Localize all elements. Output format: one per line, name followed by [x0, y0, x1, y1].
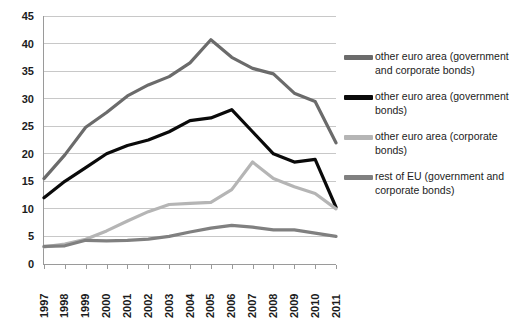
- x-tick: [169, 265, 170, 269]
- x-tick-label: 2000: [101, 272, 112, 318]
- x-tick: [273, 265, 274, 269]
- legend-entry: rest of EU (government and corporate bon…: [344, 170, 520, 197]
- legend-swatch-icon: [344, 175, 373, 180]
- x-axis: 1997199819992000200120022003200420052006…: [44, 265, 336, 319]
- line-chart: 051015202530354045 199719981999200020012…: [0, 0, 520, 319]
- x-tick: [65, 265, 66, 269]
- x-tick-label: 2004: [185, 272, 196, 318]
- y-tick-label: 20: [22, 148, 34, 159]
- x-tick: [107, 265, 108, 269]
- y-tick-label: 30: [22, 93, 34, 104]
- x-tick-label: 1999: [80, 272, 91, 318]
- legend-label: rest of EU (government and corporate bon…: [375, 170, 515, 197]
- legend-entry: other euro area (corporate bonds): [344, 130, 520, 157]
- x-tick-label: 1998: [59, 272, 70, 318]
- y-tick-label: 35: [22, 66, 34, 77]
- x-tick: [211, 265, 212, 269]
- x-tick: [253, 265, 254, 269]
- y-tick-label: 10: [22, 203, 34, 214]
- legend-entry: other euro area (government and corporat…: [344, 50, 520, 77]
- y-tick-label: 45: [22, 11, 34, 22]
- x-tick-label: 2006: [226, 272, 237, 318]
- x-tick: [294, 265, 295, 269]
- x-tick-label: 2010: [310, 272, 321, 318]
- x-tick-label: 2008: [268, 272, 279, 318]
- series-line: [44, 225, 336, 246]
- legend-label: other euro area (government bonds): [375, 90, 515, 117]
- x-tick-label: 2011: [331, 272, 342, 318]
- x-tick: [336, 265, 337, 269]
- series-line: [44, 162, 336, 247]
- x-tick: [232, 265, 233, 269]
- series-lines: [44, 16, 336, 264]
- y-tick-label: 25: [22, 121, 34, 132]
- x-tick: [148, 265, 149, 269]
- legend-swatch-icon: [344, 55, 373, 60]
- y-tick-label: 15: [22, 176, 34, 187]
- y-tick-label: 40: [22, 38, 34, 49]
- x-tick: [190, 265, 191, 269]
- x-tick-label: 2002: [143, 272, 154, 318]
- x-tick: [44, 265, 45, 269]
- x-tick: [86, 265, 87, 269]
- x-tick: [127, 265, 128, 269]
- x-tick: [315, 265, 316, 269]
- series-line: [44, 40, 336, 179]
- legend-swatch-icon: [344, 135, 373, 140]
- x-tick-label: 2001: [122, 272, 133, 318]
- x-tick-label: 2003: [164, 272, 175, 318]
- legend-swatch-icon: [344, 95, 373, 100]
- y-tick-label: 0: [28, 259, 34, 270]
- x-tick-label: 1997: [39, 272, 50, 318]
- chart-legend: other euro area (government and corporat…: [344, 50, 520, 210]
- legend-label: other euro area (corporate bonds): [375, 130, 515, 157]
- legend-entry: other euro area (government bonds): [344, 90, 520, 117]
- legend-label: other euro area (government and corporat…: [375, 50, 515, 77]
- x-tick-label: 2007: [247, 272, 258, 318]
- y-axis: 051015202530354045: [0, 0, 40, 319]
- plot-area: [44, 16, 336, 264]
- x-tick-label: 2009: [289, 272, 300, 318]
- y-tick-label: 5: [28, 231, 34, 242]
- x-tick-label: 2005: [205, 272, 216, 318]
